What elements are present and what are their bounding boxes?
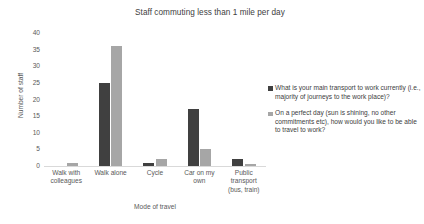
bar-group	[177, 33, 221, 166]
chart-legend: What is your main transport to work curr…	[268, 84, 422, 143]
x-axis-title: Mode of travel	[44, 203, 266, 210]
x-axis-tick-label: Car on my own	[177, 169, 221, 186]
y-axis-tick-label: 25	[33, 80, 40, 87]
bar	[143, 163, 154, 166]
bar-chart: Staff commuting less than 1 mile per day…	[0, 0, 424, 224]
y-axis-tick-label: 20	[33, 96, 40, 103]
y-axis-title: Number of staff	[17, 56, 24, 136]
legend-swatch-icon	[268, 86, 273, 91]
legend-label: On a perfect day (sun is shining, no oth…	[275, 109, 422, 135]
y-axis-tick-label: 0	[36, 163, 40, 170]
bars-layer	[44, 33, 266, 166]
x-axis-tick-labels: Walk with colleaguesWalk aloneCycleCar o…	[44, 169, 266, 205]
bar	[245, 164, 256, 166]
legend-entry[interactable]: What is your main transport to work curr…	[268, 84, 422, 101]
y-axis-tick-label: 30	[33, 63, 40, 70]
bar	[200, 149, 211, 166]
bar	[67, 163, 78, 166]
bar-group	[88, 33, 132, 166]
bar	[156, 159, 167, 166]
x-axis-tick-label: Walk with colleagues	[44, 169, 88, 186]
x-axis-line	[44, 166, 266, 167]
y-axis-tick-label: 15	[33, 113, 40, 120]
y-axis-tick-label: 5	[36, 146, 40, 153]
x-axis-tick-label: Walk alone	[88, 169, 132, 177]
y-axis-tick-label: 10	[33, 129, 40, 136]
legend-entry[interactable]: On a perfect day (sun is shining, no oth…	[268, 109, 422, 135]
bar	[111, 46, 122, 166]
bar	[99, 83, 110, 166]
y-axis-tick-label: 40	[33, 30, 40, 37]
x-axis-tick-label: Public transport (bus, train)	[222, 169, 266, 194]
bar	[188, 109, 199, 166]
legend-label: What is your main transport to work curr…	[275, 84, 422, 101]
bar-group	[44, 33, 88, 166]
bar-group	[133, 33, 177, 166]
chart-title: Staff commuting less than 1 mile per day	[60, 8, 360, 17]
bar-group	[222, 33, 266, 166]
y-axis-tick-label: 35	[33, 46, 40, 53]
bar	[232, 159, 243, 166]
x-axis-tick-label: Cycle	[133, 169, 177, 177]
legend-swatch-icon	[268, 112, 273, 117]
